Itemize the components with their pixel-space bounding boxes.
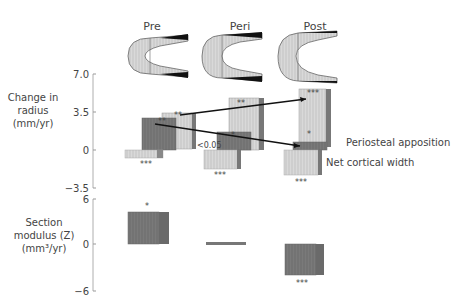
sig-peri-endocortical: *: [231, 131, 235, 140]
sig-pre-net: ***: [140, 160, 152, 169]
tick-0: 0: [83, 145, 89, 156]
bar-z-pre: [128, 212, 159, 244]
svg-text:radius: radius: [18, 105, 49, 116]
group-title-pre: Pre: [143, 20, 161, 33]
tick-0-z: 0: [83, 239, 89, 250]
tick-7: 7.0: [73, 69, 89, 80]
figure: Pre Peri Post 7.0 3.5 0 −3.5 Change in r…: [0, 0, 458, 305]
svg-text:Change in: Change in: [8, 92, 59, 103]
sig-pre-periosteal: **: [174, 111, 182, 120]
svg-text:(mm/yr): (mm/yr): [13, 118, 54, 129]
sig-peri-periosteal: **: [237, 99, 245, 108]
sig-post-periosteal: ***: [307, 89, 319, 98]
group-title-peri: Peri: [230, 20, 251, 33]
bone-diagram-peri-icon: [202, 32, 262, 82]
sig-peri-net: ***: [214, 171, 226, 180]
bars-section-modulus: [128, 212, 324, 275]
sig-z-pre: *: [145, 202, 149, 211]
bottom-y-axis: 6 0 −6: [74, 194, 96, 297]
sig-pre-endocortical: **: [158, 117, 166, 126]
bar-post-net: [284, 150, 318, 175]
tick-neg6: −6: [74, 286, 89, 297]
bar-z-peri: [206, 242, 246, 245]
svg-text:modulus (Z): modulus (Z): [14, 230, 75, 241]
svg-text:Section: Section: [25, 217, 62, 228]
bone-diagram-post-icon: [278, 31, 337, 83]
sig-z-post: ***: [296, 279, 308, 288]
top-y-axis: 7.0 3.5 0 −3.5: [65, 69, 96, 194]
pvalue-pre: <0.05: [197, 141, 222, 150]
svg-text:(mm³/yr): (mm³/yr): [22, 243, 67, 254]
tick-6: 6: [83, 194, 89, 205]
bottom-y-axis-label: Section modulus (Z) (mm³/yr): [14, 217, 75, 254]
sig-post-net: ***: [295, 178, 307, 187]
bar-peri-net: [204, 150, 237, 169]
sig-post-mid: *: [307, 130, 311, 139]
group-title-post: Post: [303, 20, 327, 33]
bone-diagram-pre-icon: [128, 34, 188, 78]
tick-neg3.5: −3.5: [65, 183, 89, 194]
bar-z-post: [285, 244, 316, 275]
tick-3.5: 3.5: [73, 107, 89, 118]
legend-net-cortical-width: Net cortical width: [326, 157, 414, 168]
legend-periosteal-apposition: Periosteal apposition: [346, 137, 450, 148]
top-y-axis-label: Change in radius (mm/yr): [8, 92, 59, 129]
